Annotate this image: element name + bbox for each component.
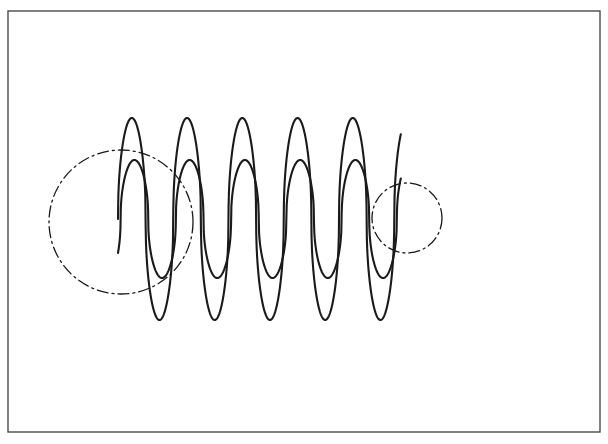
annotation-circles-group: [49, 150, 442, 294]
figure-canvas: [0, 0, 608, 444]
waveform-figure: [0, 0, 608, 444]
wave-curve-inner-wave: [118, 160, 401, 278]
right-highlight-circle: [372, 183, 442, 253]
waveform-series-group: [118, 118, 401, 320]
figure-frame: [8, 11, 600, 432]
